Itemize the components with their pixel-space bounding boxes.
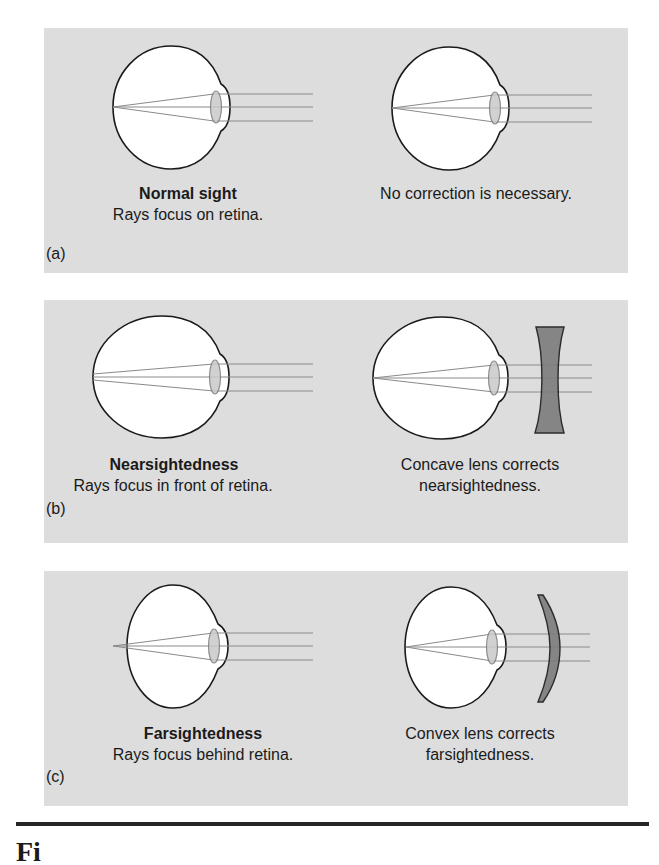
normal-sight-description: Rays focus on retina. xyxy=(108,204,268,225)
eye-normal-right xyxy=(392,47,592,170)
eye-farsighted-right-corrected xyxy=(405,587,590,708)
farsightedness-title: Farsightedness xyxy=(128,723,278,744)
convex-correction-line1: Convex lens corrects xyxy=(380,723,580,744)
caption-divider-rule xyxy=(16,822,649,826)
farsightedness-diagram xyxy=(44,571,628,806)
panel-label-c: (c) xyxy=(46,767,65,787)
figure-caption-partial: Fi xyxy=(16,838,41,865)
convex-lens xyxy=(538,595,560,702)
farsightedness-description: Rays focus behind retina. xyxy=(98,744,308,765)
eye-normal-left xyxy=(113,46,313,169)
panel-farsightedness: Farsightedness Rays focus behind retina.… xyxy=(44,571,628,806)
convex-correction-line2: farsightedness. xyxy=(380,744,580,765)
nearsightedness-diagram xyxy=(44,300,628,543)
panel-nearsightedness: Nearsightedness Rays focus in front of r… xyxy=(44,300,628,543)
nearsightedness-description: Rays focus in front of retina. xyxy=(58,475,288,496)
normal-sight-diagram xyxy=(44,28,628,273)
concave-correction-line2: nearsightedness. xyxy=(380,475,580,496)
panel-normal-sight: Normal sight Rays focus on retina. No co… xyxy=(44,28,628,273)
panel-label-a: (a) xyxy=(46,244,66,264)
concave-correction-line1: Concave lens corrects xyxy=(380,454,580,475)
nearsightedness-title: Nearsightedness xyxy=(99,454,249,475)
normal-sight-title: Normal sight xyxy=(128,183,248,204)
concave-lens xyxy=(535,327,564,433)
eye-nearsighted-left xyxy=(93,316,313,438)
no-correction-text: No correction is necessary. xyxy=(370,183,582,204)
panel-label-b: (b) xyxy=(46,499,66,519)
eye-farsighted-left xyxy=(113,585,313,708)
